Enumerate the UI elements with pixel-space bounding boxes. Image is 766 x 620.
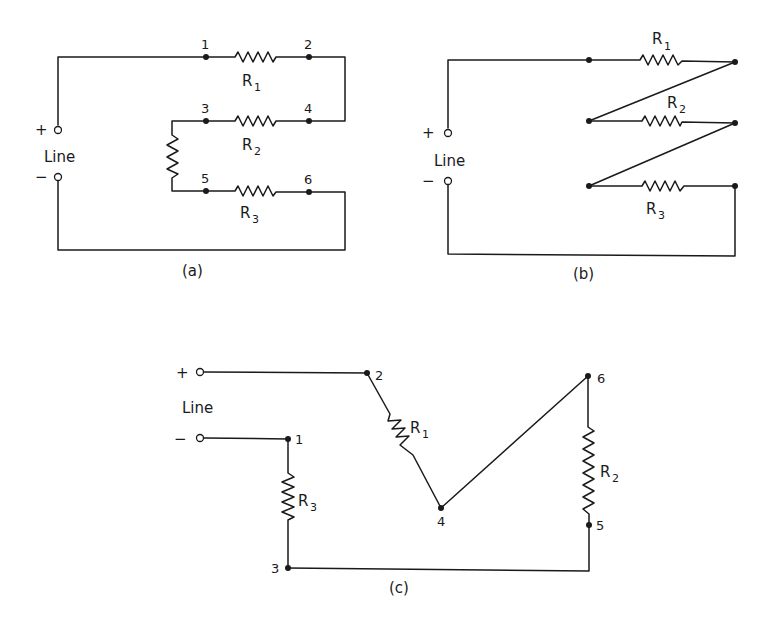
panel-c: + − Line 1 2 3 4 5 6 R 1 R 2 R 3 (c) — [174, 364, 619, 597]
node-6-label: 6 — [304, 172, 312, 187]
diagonal-r1-to-r2 — [589, 62, 735, 121]
r1-branch — [589, 55, 735, 65]
wire-plus-to-node1 — [58, 57, 206, 125]
node-r1-right — [732, 59, 738, 65]
circuit-figure: + − Line 1 2 3 4 5 6 R 1 R 2 R 3 (a) — [0, 0, 766, 620]
node-1 — [285, 436, 291, 442]
diagonal-r2-to-r3 — [589, 123, 735, 186]
plus-terminal — [445, 130, 452, 137]
svg-text:3: 3 — [658, 209, 665, 222]
wire-node2-to-node4 — [309, 57, 345, 121]
r3-vertical — [282, 439, 294, 568]
r2-label: R 2 — [600, 463, 619, 485]
plus-terminal — [197, 369, 204, 376]
plus-sign: + — [35, 121, 48, 139]
caption-c: (c) — [389, 579, 409, 597]
node-5 — [586, 522, 592, 528]
line-label: Line — [44, 148, 75, 166]
r1-label: R 1 — [410, 419, 429, 441]
wire-node5-to-node3 — [288, 525, 589, 571]
r1-label: R 1 — [242, 72, 261, 94]
r1-label: R 1 — [652, 30, 671, 53]
r2-branch — [206, 116, 309, 126]
svg-text:1: 1 — [664, 40, 671, 53]
node-6 — [585, 373, 591, 379]
line-label: Line — [182, 399, 213, 417]
svg-text:3: 3 — [252, 213, 259, 226]
minus-sign: − — [422, 172, 435, 190]
minus-terminal — [197, 435, 204, 442]
svg-text:R: R — [242, 72, 252, 90]
r2-vertical — [583, 376, 594, 525]
r3-branch — [589, 181, 735, 191]
node-5-label: 5 — [596, 518, 604, 533]
minus-terminal — [445, 178, 452, 185]
node-2-label: 2 — [304, 37, 312, 52]
svg-text:R: R — [646, 200, 656, 218]
svg-text:R: R — [242, 136, 252, 154]
node-3-label: 3 — [201, 101, 209, 116]
plus-terminal — [55, 127, 62, 134]
plus-sign: + — [422, 124, 435, 142]
svg-text:3: 3 — [310, 501, 317, 514]
wire-plus-to-node2 — [204, 372, 367, 373]
wire-plus-to-r1 — [448, 60, 589, 128]
node-4 — [438, 505, 444, 511]
r1-branch — [206, 52, 309, 62]
node-2 — [306, 54, 312, 60]
r3-label: R 3 — [240, 204, 259, 226]
node-r2-left — [586, 118, 592, 124]
node-r1-left — [586, 57, 592, 63]
svg-text:R: R — [240, 204, 250, 222]
node-3 — [285, 565, 291, 571]
caption-a: (a) — [182, 262, 203, 280]
r3-branch — [206, 186, 309, 196]
node-5 — [203, 188, 209, 194]
wire-r3-to-minus — [448, 185, 735, 256]
minus-sign: − — [174, 430, 187, 448]
node-r3-right — [732, 183, 738, 189]
r2-label: R 2 — [667, 94, 686, 116]
svg-text:R: R — [652, 30, 662, 48]
svg-text:R: R — [667, 94, 677, 112]
r3-label: R 3 — [298, 492, 317, 514]
r3-label: R 3 — [646, 200, 665, 222]
wire-minus-to-node1 — [204, 438, 288, 439]
node-3-label: 3 — [271, 561, 279, 576]
node-5-label: 5 — [201, 171, 209, 186]
node-1-label: 1 — [201, 37, 209, 52]
svg-text:R: R — [600, 463, 610, 481]
node-4-label: 4 — [304, 101, 312, 116]
svg-text:2: 2 — [254, 145, 261, 158]
caption-b: (b) — [573, 265, 594, 283]
node-4 — [306, 118, 312, 124]
r1-diagonal — [367, 373, 441, 508]
node-1-label: 1 — [295, 432, 303, 447]
node-4-label: 4 — [437, 514, 445, 529]
minus-sign: − — [35, 168, 48, 186]
node-r3-left — [586, 183, 592, 189]
minus-terminal — [55, 174, 62, 181]
node-6-label: 6 — [597, 371, 605, 386]
svg-text:1: 1 — [422, 428, 429, 441]
plus-sign: + — [176, 364, 189, 382]
node-3 — [203, 118, 209, 124]
node-2 — [364, 370, 370, 376]
svg-text:R: R — [298, 492, 308, 510]
node-6 — [306, 189, 312, 195]
svg-text:1: 1 — [254, 81, 261, 94]
svg-text:R: R — [410, 419, 420, 437]
svg-text:2: 2 — [612, 472, 619, 485]
svg-text:2: 2 — [679, 103, 686, 116]
node-r2-right — [732, 120, 738, 126]
panel-b: + − Line R 1 R 2 R 3 (b) — [422, 30, 738, 283]
node-1 — [203, 54, 209, 60]
node-2-label: 2 — [375, 368, 383, 383]
r2-branch — [589, 116, 735, 126]
r2-label: R 2 — [242, 136, 261, 158]
panel-a: + − Line 1 2 3 4 5 6 R 1 R 2 R 3 (a) — [35, 37, 345, 280]
wire-node4-to-node6 — [441, 376, 588, 508]
line-label: Line — [434, 152, 465, 170]
